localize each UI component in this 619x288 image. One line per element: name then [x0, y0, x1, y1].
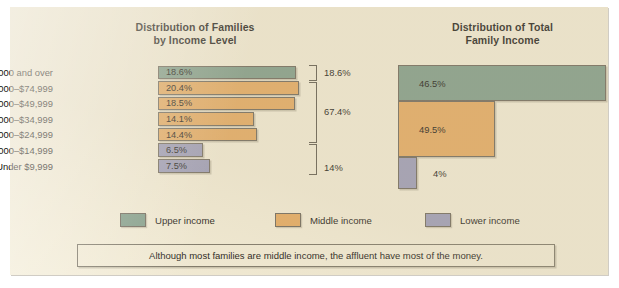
bar-value-label: 6.5%	[166, 145, 187, 155]
chart-panel: Distribution of Families by Income Level…	[10, 7, 608, 275]
legend-label-lower: Lower income	[460, 215, 520, 226]
bar-row: $10,000–$14,999 6.5%	[10, 143, 350, 159]
bracket-label-middle: 67.4%	[324, 106, 351, 117]
bracket-label-lower: 14%	[324, 162, 343, 173]
bar-value-label: 14.4%	[166, 130, 192, 140]
legend-label-upper: Upper income	[155, 215, 215, 226]
right-chart-title-line2: Family Income	[395, 34, 610, 47]
bar-value-label: 20.4%	[166, 83, 192, 93]
left-chart-title-line1: Distribution of Families	[80, 21, 310, 34]
group-brackets: 18.6% 67.4% 14%	[307, 65, 412, 195]
bar-category-label: $50,000–$74,999	[0, 82, 53, 95]
bracket-label-upper: 18.6%	[324, 67, 351, 78]
rbar-value-label: 46.5%	[419, 78, 446, 89]
left-chart-title-line2: by Income Level	[80, 34, 310, 47]
bar-middle-15000-24999: 14.4%	[158, 128, 257, 142]
caption-text: Although most families are middle income…	[149, 250, 483, 261]
right-chart-title: Distribution of Total Family Income	[395, 21, 610, 47]
total-family-income-chart: 46.5% 49.5% 4%	[398, 65, 610, 195]
bar-row: $35,000–$49,999 18.5%	[10, 96, 350, 112]
rbar-value-label: 49.5%	[419, 124, 446, 135]
left-chart-title: Distribution of Families by Income Level	[80, 21, 310, 47]
bar-category-label: $15,000–$24,999	[0, 128, 53, 141]
bar-value-label: 7.5%	[166, 161, 187, 171]
bar-row: $50,000–$74,999 20.4%	[10, 81, 350, 97]
bracket-lower	[309, 144, 317, 175]
bar-lower-10000-14999: 6.5%	[158, 143, 203, 157]
caption-box: Although most families are middle income…	[77, 244, 555, 267]
bar-category-label: Under $9,999	[0, 160, 53, 173]
legend-item-lower-income: Lower income	[425, 213, 520, 227]
legend-item-middle-income: Middle income	[275, 213, 372, 227]
families-by-income-level-chart: $75,000 and over 18.6% $50,000–$74,999 2…	[10, 65, 350, 195]
bar-value-label: 18.5%	[166, 98, 192, 108]
bar-row: Under $9,999 7.5%	[10, 159, 350, 175]
legend-swatch-icon-lower	[425, 213, 451, 227]
bar-row: $15,000–$24,999 14.4%	[10, 127, 350, 143]
rbar-middle-income: 49.5%	[398, 101, 495, 157]
legend-swatch-icon-upper	[120, 213, 146, 227]
bar-middle-25000-34999: 14.1%	[158, 112, 254, 126]
rbar-lower-income: 4%	[398, 157, 417, 189]
bar-category-label: $75,000 and over	[0, 66, 53, 79]
legend-swatch-icon-middle	[275, 213, 301, 227]
bracket-upper	[309, 65, 317, 81]
bar-middle-50000-74999: 20.4%	[158, 81, 299, 95]
chart-legend: Upper income Middle income Lower income	[120, 213, 520, 233]
bar-category-label: $25,000–$34,999	[0, 113, 53, 126]
bracket-middle	[309, 82, 317, 143]
legend-item-upper-income: Upper income	[120, 213, 215, 227]
bar-row: $25,000–$34,999 14.1%	[10, 112, 350, 128]
bar-category-label: $10,000–$14,999	[0, 144, 53, 157]
rbar-upper-income: 46.5%	[398, 65, 606, 101]
bar-upper-75000-and-over: 18.6%	[158, 66, 296, 80]
rbar-value-label: 4%	[433, 168, 447, 179]
bar-category-label: $35,000–$49,999	[0, 97, 53, 110]
bar-lower-under-9999: 7.5%	[158, 159, 210, 173]
bar-value-label: 14.1%	[166, 114, 192, 124]
bar-row: $75,000 and over 18.6%	[10, 65, 350, 81]
bar-value-label: 18.6%	[166, 67, 192, 77]
bar-middle-35000-49999: 18.5%	[158, 97, 295, 111]
legend-label-middle: Middle income	[310, 215, 372, 226]
right-chart-title-line1: Distribution of Total	[395, 21, 610, 34]
